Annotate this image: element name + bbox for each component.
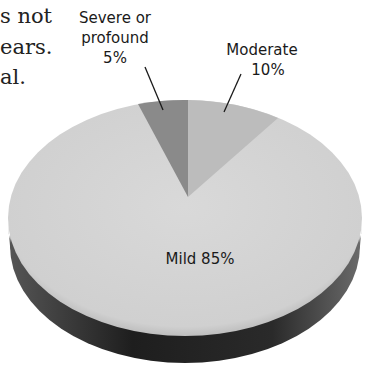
label-severe-value: 5% <box>72 48 158 68</box>
label-severe-line2: profound <box>72 28 158 48</box>
label-moderate-line1: Moderate <box>222 40 302 60</box>
pie-chart <box>0 0 368 377</box>
label-severe-line1: Severe or <box>72 8 158 28</box>
label-moderate-value: 10% <box>222 60 302 80</box>
label-moderate: Moderate 10% <box>222 40 302 80</box>
label-severe: Severe or profound 5% <box>72 8 158 68</box>
label-mild: Mild 85% <box>150 249 250 269</box>
